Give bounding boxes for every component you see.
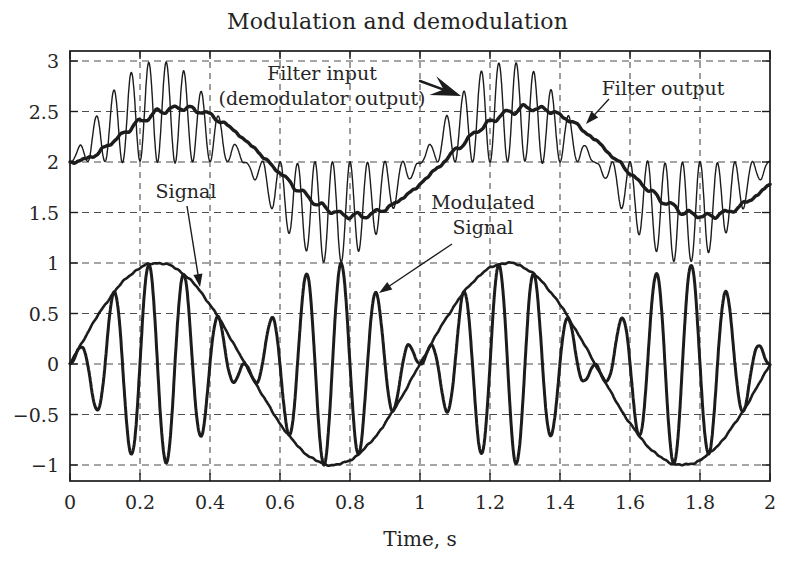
y-tick-label: 2.5 (29, 101, 59, 123)
x-tick-label: 0.4 (195, 491, 225, 513)
y-tick-label: 2 (47, 151, 59, 173)
modulation-demodulation-plot: 00.20.40.60.811.21.41.61.82−1−0.500.511.… (0, 0, 795, 580)
annotation-label: Filter output (602, 77, 725, 99)
x-axis-label: Time, s (70, 527, 770, 551)
y-tick-label: 0 (47, 353, 59, 375)
x-tick-label: 1.6 (615, 491, 645, 513)
x-tick-label: 1 (414, 491, 426, 513)
annotation-label: Signal (453, 216, 514, 238)
annotation-arrow-line (187, 206, 199, 279)
x-tick-label: 1.2 (475, 491, 505, 513)
annotation-arrowhead (379, 282, 392, 293)
y-tick-label: 3 (47, 50, 59, 72)
annotation-label: Signal (156, 180, 217, 202)
x-tick-label: 1.4 (545, 491, 575, 513)
y-tick-label: −0.5 (13, 404, 59, 426)
y-tick-label: 1 (47, 252, 59, 274)
x-tick-label: 0 (64, 491, 76, 513)
y-tick-label: 0.5 (29, 303, 59, 325)
y-tick-label: −1 (31, 454, 59, 476)
x-tick-label: 1.8 (685, 491, 715, 513)
x-tick-label: 2 (764, 491, 776, 513)
annotation-label: Filter input (267, 62, 377, 84)
x-tick-label: 0.6 (265, 491, 295, 513)
annotation-arrow-line (386, 244, 452, 289)
x-tick-label: 0.2 (125, 491, 155, 513)
y-tick-label: 1.5 (29, 202, 59, 224)
annotation-label: Modulated (431, 191, 535, 213)
x-tick-label: 0.8 (335, 491, 365, 513)
annotation-label: (demodulator output) (218, 87, 425, 109)
